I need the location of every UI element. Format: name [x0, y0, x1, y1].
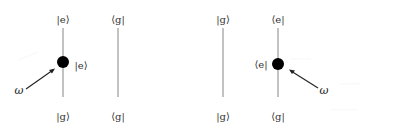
faint-watermark-right-1: ⋯⋯⋯ [290, 55, 311, 63]
right-photon-arrow [291, 71, 318, 88]
left-photon-arrow [26, 70, 53, 89]
right-vertex-dot [272, 58, 284, 70]
right-vertex-label: ⟨e| [254, 60, 267, 70]
right-bra-top-label: ⟨e| [271, 15, 284, 25]
right-omega-label: ω [320, 85, 329, 96]
faint-watermark-right-2: ⋯⋯⋯ [340, 80, 361, 88]
left-bra-top-label: ⟨g| [111, 15, 125, 25]
left-vertex-dot [57, 56, 69, 68]
faint-watermark-right-3: ⋯⋯⋯⋯ [330, 106, 358, 114]
right-bra-bottom-label: ⟨g| [271, 112, 285, 122]
feynman-diagram-canvas: |e⟩ |g⟩ |e⟩ ⟨g| ⟨g| ω |g⟩ |g⟩ ⟨e| ⟨g| ⟨e… [0, 0, 395, 133]
left-omega-label: ω [15, 85, 24, 96]
left-vertex-label: |e⟩ [74, 61, 87, 71]
left-ket-top-label: |e⟩ [56, 15, 69, 25]
left-ket-bottom-label: |g⟩ [56, 112, 70, 122]
right-ket-bottom-label: |g⟩ [216, 112, 230, 122]
left-bra-bottom-label: ⟨g| [111, 112, 125, 122]
right-ket-top-label: |g⟩ [216, 15, 230, 25]
